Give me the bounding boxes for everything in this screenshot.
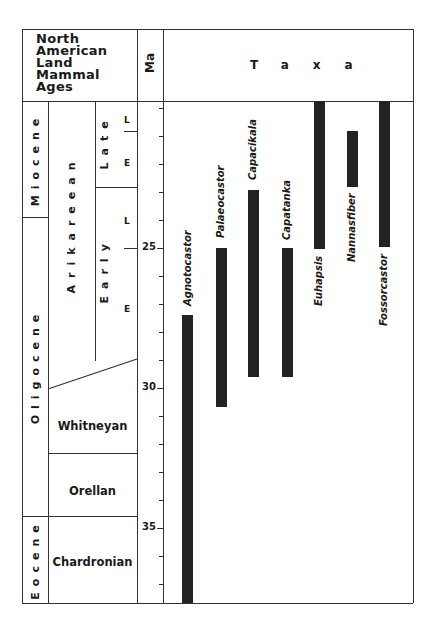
minor-tick xyxy=(159,444,163,445)
taxon-label-palaeocastor: Palaeocastor xyxy=(215,166,226,238)
nalma-whitneyan: Whitneyan xyxy=(48,419,137,433)
tick-label-25: 25 xyxy=(136,241,156,252)
minor-tick xyxy=(159,584,163,585)
whitneyan-orellan-boundary xyxy=(48,453,137,454)
minor-tick xyxy=(159,332,163,333)
bar-nannasfiber xyxy=(347,131,358,187)
minor-tick xyxy=(159,416,163,417)
minor-tick xyxy=(159,556,163,557)
taxon-label-capacikala: Capacikala xyxy=(247,119,258,180)
minor-tick xyxy=(159,500,163,501)
minor-tick xyxy=(159,108,163,109)
minor-tick xyxy=(159,360,163,361)
bar-agnotocastor xyxy=(182,315,193,603)
minor-tick xyxy=(159,304,163,305)
bar-euhapsis xyxy=(314,101,325,249)
nalma-chadronian: Chardronian xyxy=(48,555,137,569)
minor-tick xyxy=(159,276,163,277)
bar-capatanka xyxy=(282,248,293,377)
tick-label-35: 35 xyxy=(136,521,156,532)
bar-capacikala xyxy=(248,190,259,377)
taxon-label-agnotocastor: Agnotocastor xyxy=(182,230,193,306)
taxon-label-euhapsis: Euhapsis xyxy=(313,256,324,306)
nalma-orellan: Orellan xyxy=(48,484,137,498)
taxon-label-capatanka: Capatanka xyxy=(281,180,292,240)
minor-tick xyxy=(159,136,163,137)
bar-fossorcastor xyxy=(379,101,390,247)
minor-tick xyxy=(159,192,163,193)
taxon-label-fossorcastor: Fossorcastor xyxy=(378,254,389,326)
major-tick-25 xyxy=(157,248,163,249)
major-tick-30 xyxy=(157,388,163,389)
major-tick-35 xyxy=(157,528,163,529)
tick-label-30: 30 xyxy=(136,381,156,392)
bar-palaeocastor xyxy=(216,248,227,407)
minor-tick xyxy=(159,220,163,221)
minor-tick xyxy=(159,164,163,165)
taxon-label-nannasfiber: Nannasfiber xyxy=(346,193,357,262)
minor-tick xyxy=(159,472,163,473)
